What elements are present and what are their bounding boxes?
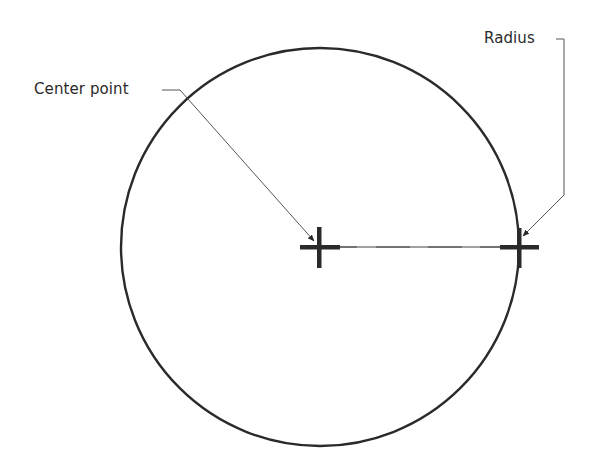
center-cross-mark [300,227,340,268]
center-point-label: Center point [34,80,129,98]
diagram-canvas [0,0,597,471]
circle-diagram: Center point Radius [0,0,597,471]
center-point-leader-arrow [162,90,314,241]
radius-label: Radius [484,29,535,47]
radius-cross-mark [500,228,539,268]
radius-leader-arrow [523,39,564,236]
